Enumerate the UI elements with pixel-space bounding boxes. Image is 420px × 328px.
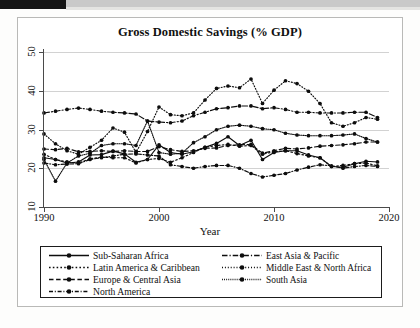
dashed-line-marker [48,274,90,285]
x-tick-label-2000: 2000 [137,212,181,223]
x-axis-line [43,207,390,208]
long-dash-dot-line-marker [221,250,263,261]
legend-column-left: Sub-Saharan AfricaLatin America & Caribb… [48,250,220,298]
solid-line-marker [48,250,90,261]
legend-label: Latin America & Caribbean [90,262,200,273]
legend-item-europe-central-asia[interactable]: Europe & Central Asia [48,274,220,286]
legend-item-latin-america-caribbean[interactable]: Latin America & Caribbean [48,262,220,274]
legend-label: Middle East & North Africa [263,263,371,273]
x-tick-label-2010: 2010 [252,212,296,223]
legend-label: Europe & Central Asia [90,274,181,285]
series-east-asia-pacific [42,104,379,124]
y-tick-label-50: 50 [26,42,37,62]
y-axis-line [43,49,44,208]
legend-item-north-america[interactable]: North America [48,286,220,298]
legend-item-south-asia[interactable]: South Asia [221,274,379,286]
y-tick-label-30: 30 [26,120,37,140]
legend-label: East Asia & Pacific [263,251,339,261]
series-south-asia [42,119,379,183]
dense-dotted-line-marker [221,274,263,285]
scanned-figure-page: Gross Domestic Savings (% GDP) 10 20 30 … [0,0,420,328]
chart-title: Gross Domestic Savings (% GDP) [18,25,402,40]
legend-label: South Asia [263,275,307,285]
fine-dotted-line-marker [221,262,263,273]
x-tick-label-2020: 2020 [367,212,411,223]
legend-item-middle-east-north-africa[interactable]: Middle East & North Africa [221,262,379,274]
y-tick-label-40: 40 [26,81,37,101]
plot-area [44,51,389,205]
legend-item-east-asia-pacific[interactable]: East Asia & Pacific [221,250,379,262]
data-series-plot [44,51,389,205]
dotted-line-marker [48,262,90,273]
series-north-america [42,152,379,179]
legend-label: North America [90,286,150,297]
legend-item-sub-saharan-africa[interactable]: Sub-Saharan Africa [48,250,220,262]
series-middle-east-north-africa [42,77,379,156]
chart-legend: Sub-Saharan AfricaLatin America & Caribb… [40,246,382,298]
scan-artifact-black-bar [0,0,66,9]
dash-dot-line-marker [48,286,90,297]
series-europe-central-asia [42,140,379,155]
legend-column-right: East Asia & PacificMiddle East & North A… [221,250,379,286]
legend-label: Sub-Saharan Africa [90,250,168,261]
plot-wrapper: Gross Domestic Savings (% GDP) 10 20 30 … [18,18,402,306]
x-axis-title: Year [18,225,402,237]
scan-artifact-gray-bar-soft [66,7,420,10]
scan-artifact-gray-bar [66,0,420,7]
x-tick-label-1990: 1990 [22,212,66,223]
figure-frame: Gross Domestic Savings (% GDP) 10 20 30 … [17,17,403,307]
y-tick-label-20: 20 [26,158,37,178]
